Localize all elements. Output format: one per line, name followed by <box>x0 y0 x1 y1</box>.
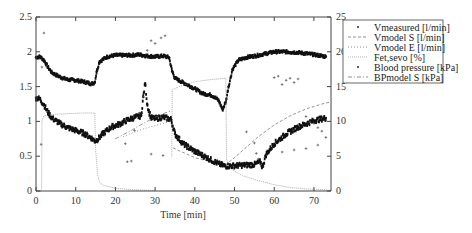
y-tick-label-right: 5 <box>336 150 341 161</box>
data-point <box>168 56 170 58</box>
series-line <box>173 102 331 165</box>
data-point <box>297 78 300 81</box>
data-point <box>325 119 327 122</box>
x-tick-label: 20 <box>110 195 120 206</box>
data-point <box>82 129 84 132</box>
data-point <box>217 163 219 165</box>
series-fet-sevo-2nd-step <box>172 78 331 190</box>
data-point <box>182 81 184 83</box>
data-point <box>277 75 280 78</box>
data-point <box>160 118 162 121</box>
data-point <box>39 55 41 57</box>
data-point <box>124 142 127 145</box>
series-vmeasured-l-min <box>35 49 327 112</box>
data-point <box>47 66 49 68</box>
data-point <box>317 126 320 129</box>
data-point <box>146 49 149 52</box>
data-point <box>265 156 267 159</box>
data-point <box>82 132 84 134</box>
data-point <box>293 81 296 84</box>
data-point <box>141 111 143 114</box>
data-point <box>130 160 133 163</box>
data-point <box>223 105 225 108</box>
y-tick-label-left: 1.5 <box>20 81 33 92</box>
data-point <box>227 85 229 87</box>
chart: 01020304050607000.511.522.50510152025 Ti… <box>0 0 472 233</box>
data-point <box>134 116 136 118</box>
data-point <box>144 82 146 84</box>
data-point <box>289 77 292 80</box>
data-point <box>297 126 299 128</box>
x-tick-label: 10 <box>71 195 81 206</box>
data-point <box>90 137 92 139</box>
data-point <box>59 122 61 124</box>
data-point <box>313 53 315 55</box>
data-point <box>110 126 112 128</box>
y-tick-label-right: 0 <box>336 185 341 196</box>
data-point <box>140 115 142 117</box>
data-point <box>150 39 153 42</box>
data-point <box>96 70 98 72</box>
data-point <box>194 150 196 152</box>
data-point <box>321 130 324 133</box>
data-point <box>146 103 148 105</box>
data-point <box>106 55 108 57</box>
data-point <box>159 115 161 118</box>
data-point <box>126 160 129 163</box>
data-point <box>229 83 231 86</box>
data-point <box>257 54 259 56</box>
x-tick-label: 70 <box>309 195 319 206</box>
y-tick-label-left: 2.5 <box>20 11 33 22</box>
data-point <box>67 78 69 80</box>
data-point <box>194 87 196 89</box>
data-point <box>154 117 156 119</box>
data-point <box>253 163 255 165</box>
x-tick-label: 60 <box>269 195 279 206</box>
data-point <box>51 117 53 119</box>
data-point <box>285 133 287 135</box>
data-point <box>241 164 243 166</box>
data-point <box>186 147 188 150</box>
data-point <box>182 142 184 144</box>
data-point <box>43 59 45 61</box>
y-tick-label-left: 1 <box>27 115 32 126</box>
data-point <box>164 34 167 37</box>
data-point <box>162 154 165 157</box>
data-point <box>118 123 120 125</box>
data-point <box>171 70 173 72</box>
data-point <box>309 123 311 126</box>
data-point <box>255 152 258 155</box>
data-point <box>154 42 157 45</box>
data-point <box>245 131 248 134</box>
x-axis-title: Time [min] <box>160 209 205 220</box>
data-point <box>145 84 147 87</box>
data-point <box>202 92 204 94</box>
data-point <box>75 79 77 81</box>
axes-layer: 01020304050607000.511.522.50510152025 <box>20 11 347 206</box>
data-point <box>263 162 265 165</box>
data-point <box>41 66 44 69</box>
series-fet-sevo <box>36 113 155 191</box>
data-point <box>146 97 148 100</box>
data-point <box>96 138 98 140</box>
data-point <box>219 101 221 104</box>
data-point <box>235 64 237 67</box>
data-point <box>143 90 145 93</box>
data-point <box>133 129 136 132</box>
data-point <box>210 156 212 159</box>
legend-symbol <box>357 66 359 68</box>
data-point <box>172 125 174 128</box>
data-point <box>82 81 84 83</box>
data-point <box>305 147 308 150</box>
data-point <box>259 161 261 163</box>
data-point <box>150 117 152 119</box>
data-point <box>118 125 120 128</box>
data-point <box>126 119 128 121</box>
data-point <box>213 96 215 98</box>
data-point <box>265 153 267 155</box>
data-point <box>43 103 45 105</box>
data-point <box>273 142 275 144</box>
data-point <box>313 120 315 122</box>
y-tick-label-left: 2 <box>27 46 32 57</box>
data-point <box>51 71 53 73</box>
